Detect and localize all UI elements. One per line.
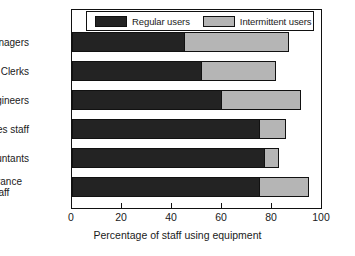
chart-legend: Regular users Intermittent users	[86, 11, 314, 31]
stacked-bar-chart: Regular users Intermittent users Manager…	[0, 0, 355, 256]
legend-label-regular-users: Regular users	[132, 16, 190, 27]
x-tick-20	[121, 203, 122, 209]
category-label-accountants: Accountants	[0, 153, 29, 164]
category-label-insurance-staff: Insurancestaff	[0, 176, 31, 198]
bars-area	[72, 32, 321, 208]
category-label-sales-staff: Sales staff	[0, 124, 29, 135]
bar-segment-intermittent-users	[201, 61, 276, 81]
bar-segment-regular-users	[72, 61, 201, 81]
legend-swatch-intermittent-users	[203, 16, 235, 27]
bar-segment-regular-users	[72, 119, 259, 139]
bar-segment-regular-users	[72, 32, 184, 52]
bar-segment-intermittent-users	[264, 148, 279, 168]
legend-swatch-regular-users	[95, 16, 127, 27]
category-label-clerks: Clerks	[1, 66, 29, 77]
x-tick-80	[271, 203, 272, 209]
legend-entry-regular-users: Regular users	[95, 12, 190, 30]
bar-row	[72, 119, 286, 139]
bar-segment-intermittent-users	[184, 32, 289, 52]
x-tick-label-80: 80	[265, 211, 277, 223]
x-tick-60	[221, 203, 222, 209]
category-label-engineers: Engineers	[0, 95, 29, 106]
bar-row	[72, 177, 309, 197]
x-tick-label-20: 20	[115, 211, 127, 223]
category-label-managers: Managers	[0, 37, 29, 48]
x-tick-label-0: 0	[68, 211, 74, 223]
x-tick-40	[171, 203, 172, 209]
bar-segment-regular-users	[72, 177, 259, 197]
x-tick-label-100: 100	[312, 211, 330, 223]
x-tick-label-40: 40	[165, 211, 177, 223]
bar-segment-intermittent-users	[221, 90, 301, 110]
legend-label-intermittent-users: Intermittent users	[240, 16, 312, 27]
bar-row	[72, 32, 289, 52]
x-tick-label-60: 60	[215, 211, 227, 223]
bar-segment-regular-users	[72, 90, 221, 110]
legend-entry-intermittent-users: Intermittent users	[203, 12, 312, 30]
bar-row	[72, 90, 301, 110]
x-axis-title: Percentage of staff using equipment	[0, 229, 355, 241]
bar-row	[72, 61, 276, 81]
bar-segment-intermittent-users	[259, 177, 309, 197]
x-tick-100	[321, 203, 322, 209]
x-tick-0	[71, 203, 72, 209]
bar-segment-intermittent-users	[259, 119, 286, 139]
bar-row	[72, 148, 279, 168]
bar-segment-regular-users	[72, 148, 264, 168]
